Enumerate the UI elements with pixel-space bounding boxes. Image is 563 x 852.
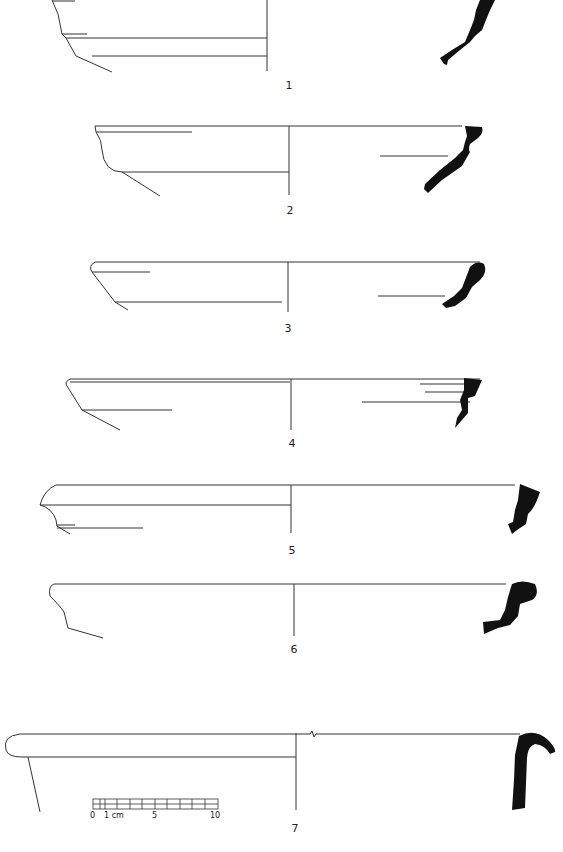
profile-number-1: 1 [286, 79, 293, 92]
section-3 [442, 263, 485, 308]
scale-tick-5: 5 [152, 811, 157, 820]
profile-6 [50, 584, 507, 638]
profile-3 [91, 262, 480, 312]
section-1 [440, 0, 495, 65]
pottery-profiles-drawing [0, 0, 563, 852]
profile-number-5: 5 [289, 544, 296, 557]
profile-7 [5, 731, 520, 812]
section-7 [512, 733, 555, 810]
section-6 [483, 582, 537, 635]
profile-2 [95, 126, 462, 196]
profile-number-3: 3 [285, 322, 292, 335]
scale-tick-10: 10 [210, 811, 220, 820]
profile-1 [52, 0, 267, 72]
section-5 [508, 484, 540, 534]
section-2 [424, 126, 483, 193]
profile-4 [66, 379, 480, 430]
profile-number-4: 4 [289, 437, 296, 450]
profile-number-2: 2 [287, 204, 294, 217]
profile-5 [40, 485, 515, 534]
scale-tick-1cm: 1 cm [104, 811, 124, 820]
section-4 [455, 378, 482, 428]
profile-number-6: 6 [291, 643, 298, 656]
profile-number-7: 7 [292, 822, 299, 835]
scale-bar [93, 799, 218, 809]
scale-tick-0: 0 [90, 811, 95, 820]
